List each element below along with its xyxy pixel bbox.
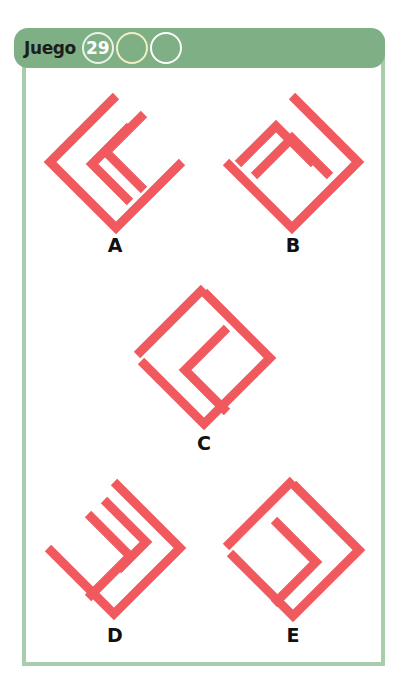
option-d[interactable]: D: [30, 474, 200, 659]
option-a-label: A: [30, 236, 200, 255]
inner-chevron-left: [185, 328, 227, 412]
puzzle-page: Juego 29 A: [0, 0, 407, 696]
option-b[interactable]: B: [208, 84, 378, 269]
option-b-label: B: [208, 236, 378, 255]
option-d-figure: [30, 474, 200, 629]
option-e-label: E: [208, 626, 378, 645]
outer-diamond-upper: [141, 292, 270, 424]
outer-diamond-upper: [230, 484, 359, 616]
option-e[interactable]: E: [208, 474, 378, 659]
option-c-label: C: [119, 434, 289, 453]
inner-chevron-1-right: [88, 514, 130, 598]
outer-chevron-open-left: [48, 482, 180, 614]
option-c[interactable]: C: [119, 282, 289, 467]
options-grid: A B: [22, 42, 385, 666]
outer-diamond-lower: [137, 288, 204, 355]
inner-chevron-right: [274, 520, 316, 604]
option-c-figure: [119, 282, 289, 437]
outer-diamond-lower: [226, 480, 293, 547]
option-b-figure: [208, 84, 378, 239]
option-a[interactable]: A: [30, 84, 200, 269]
option-e-figure: [208, 474, 378, 629]
option-d-label: D: [30, 626, 200, 645]
option-a-figure: [30, 84, 200, 239]
